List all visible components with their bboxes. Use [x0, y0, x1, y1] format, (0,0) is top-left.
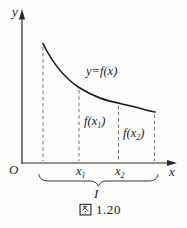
caption-number: 1.20 [96, 203, 121, 217]
curve-equation-label: y=f(x) [86, 65, 117, 78]
textbook-figure: y x O y=f(x) f(x1) f(x2) x1 x2 I 1.20 [0, 0, 187, 228]
function-curve [43, 44, 155, 113]
interval-brace [39, 175, 158, 187]
f-x1-label-base: f(x [84, 114, 97, 128]
caption-cjk-figure-glyph [79, 203, 92, 216]
y-axis-arrow-icon [19, 9, 25, 20]
figure-caption: 1.20 [13, 203, 187, 217]
f-x1-label-close: ) [101, 114, 105, 128]
f-x2-label: f(x2) [123, 127, 144, 142]
f-x2-label-base: f(x [123, 126, 136, 140]
f-x2-label-close: ) [140, 126, 144, 140]
x2-tick-label: x2 [115, 165, 125, 180]
x2-tick-sub: 2 [121, 170, 125, 179]
x1-tick-label: x1 [76, 165, 86, 180]
f-x1-label: f(x1) [84, 115, 105, 130]
x-axis-label: x [169, 165, 175, 178]
x1-tick-sub: 1 [82, 170, 86, 179]
y-axis-label: y [12, 5, 18, 18]
interval-label: I [94, 187, 98, 200]
origin-label: O [9, 163, 18, 176]
